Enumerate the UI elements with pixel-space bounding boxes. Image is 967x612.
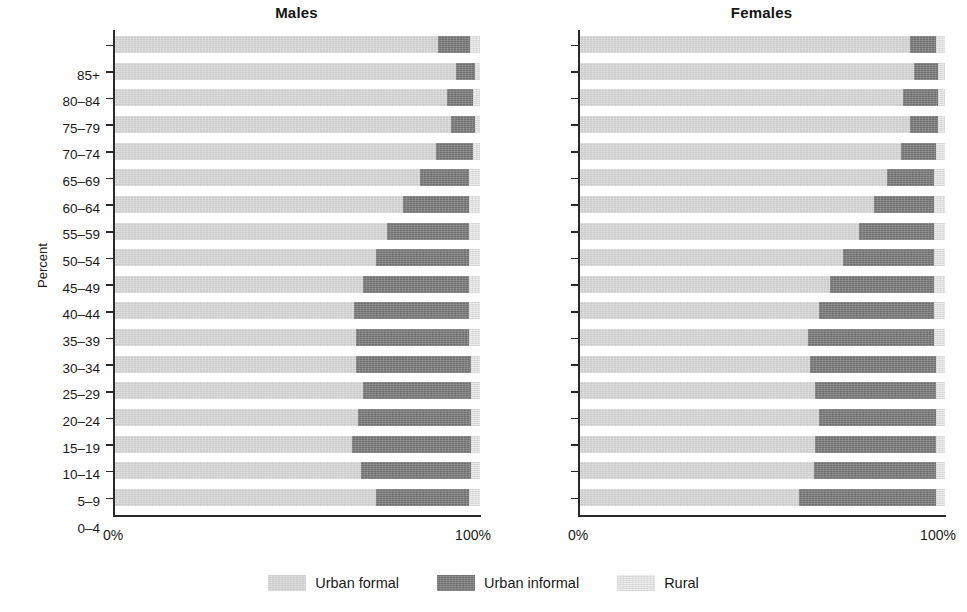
y-axis-tick [571, 418, 578, 420]
bar-segment-rural [469, 169, 480, 186]
bar-row [115, 302, 480, 319]
bar-segment-rural [936, 489, 945, 506]
bar-segment-rural [934, 329, 945, 346]
bar-segment-rural [936, 436, 945, 453]
bar-segment-rural [469, 223, 480, 240]
bar-segment-urban-formal [580, 89, 903, 106]
bar-segment-urban-formal [115, 63, 456, 80]
bar-segment-urban-informal [376, 489, 469, 506]
bar-segment-urban-formal [580, 329, 808, 346]
bar-segment-urban-informal [903, 89, 938, 106]
x-tick-label-females-100: 100% [898, 527, 967, 543]
bar-row [115, 329, 480, 346]
bar-segment-urban-formal [580, 489, 799, 506]
bar-row [580, 116, 945, 133]
y-axis-tick [571, 444, 578, 446]
bar-segment-urban-formal [580, 382, 815, 399]
bar-segment-urban-formal [115, 143, 436, 160]
legend-swatch-urban-formal [268, 575, 306, 591]
y-axis-tick [106, 471, 113, 473]
y-axis-tick [106, 71, 113, 73]
y-axis-tick [106, 124, 113, 126]
y-axis-tick [106, 151, 113, 153]
bar-segment-rural [936, 36, 945, 53]
y-tick-label: 85+ [0, 67, 100, 82]
bar-segment-rural [934, 169, 945, 186]
bar-row [580, 223, 945, 240]
bar-segment-urban-informal [815, 382, 935, 399]
bar-row [580, 436, 945, 453]
bar-segment-rural [934, 302, 945, 319]
y-axis-tick [571, 311, 578, 313]
y-tick-label: 45–49 [0, 280, 100, 295]
y-tick-label: 25–29 [0, 387, 100, 402]
y-axis-tick [106, 418, 113, 420]
panel-title-females: Females [578, 4, 945, 21]
y-axis-tick [106, 98, 113, 100]
bar-segment-rural [938, 63, 945, 80]
bar-segment-urban-informal [808, 329, 934, 346]
bar-segment-urban-formal [115, 302, 354, 319]
bar-segment-urban-informal [420, 169, 469, 186]
y-axis-tick [106, 231, 113, 233]
y-tick-label: 10–14 [0, 467, 100, 482]
bar-segment-urban-formal [580, 276, 830, 293]
bar-segment-urban-formal [580, 356, 810, 373]
y-axis-tick [106, 364, 113, 366]
bar-segment-urban-informal [363, 382, 471, 399]
bar-row [115, 436, 480, 453]
x-tick-label-females-0: 0% [538, 527, 618, 543]
panel-title-males: Males [113, 4, 480, 21]
y-axis-tick [106, 311, 113, 313]
y-axis-tick [571, 151, 578, 153]
bar-segment-urban-informal [354, 302, 469, 319]
y-axis-tick [571, 231, 578, 233]
bar-segment-urban-formal [115, 196, 403, 213]
y-tick-label: 5–9 [0, 493, 100, 508]
bar-segment-urban-informal [361, 462, 471, 479]
bar-segment-rural [936, 462, 945, 479]
bar-segment-urban-informal [910, 116, 937, 133]
bar-segment-urban-informal [810, 356, 936, 373]
bar-segment-rural [469, 489, 480, 506]
bar-segment-rural [473, 89, 480, 106]
legend-label: Rural [664, 575, 699, 591]
bar-segment-urban-informal [352, 436, 471, 453]
bar-segment-urban-formal [115, 356, 356, 373]
y-axis-tick [571, 45, 578, 47]
bar-segment-urban-formal [115, 223, 387, 240]
bar-row [115, 116, 480, 133]
bar-segment-rural [934, 196, 945, 213]
bar-segment-urban-informal [436, 143, 473, 160]
bar-segment-rural [473, 143, 480, 160]
bar-row [580, 196, 945, 213]
bar-segment-rural [469, 329, 480, 346]
bar-segment-rural [471, 356, 480, 373]
bar-segment-urban-informal [819, 409, 936, 426]
bar-segment-urban-formal [580, 249, 843, 266]
bar-row [580, 462, 945, 479]
bar-segment-urban-informal [887, 169, 934, 186]
y-tick-label: 75–79 [0, 120, 100, 135]
bar-row [580, 302, 945, 319]
bar-row [115, 89, 480, 106]
y-axis-tick [571, 204, 578, 206]
bar-segment-rural [936, 356, 945, 373]
bar-segment-urban-formal [115, 36, 438, 53]
y-axis-tick [571, 124, 578, 126]
x-tick-label-males-100: 100% [433, 527, 513, 543]
y-axis-ticks-males [106, 30, 113, 517]
bar-row [115, 249, 480, 266]
bar-row [115, 409, 480, 426]
bar-segment-urban-informal [363, 276, 469, 293]
legend-swatch-urban-informal [437, 575, 475, 591]
bar-row [115, 169, 480, 186]
bar-row [580, 276, 945, 293]
bar-row [115, 143, 480, 160]
bar-segment-urban-informal [456, 63, 475, 80]
legend-label: Urban formal [315, 575, 399, 591]
bar-segment-urban-informal [874, 196, 934, 213]
bar-segment-urban-formal [115, 409, 358, 426]
legend-item-rural: Rural [617, 575, 699, 591]
bar-segment-rural [471, 462, 480, 479]
